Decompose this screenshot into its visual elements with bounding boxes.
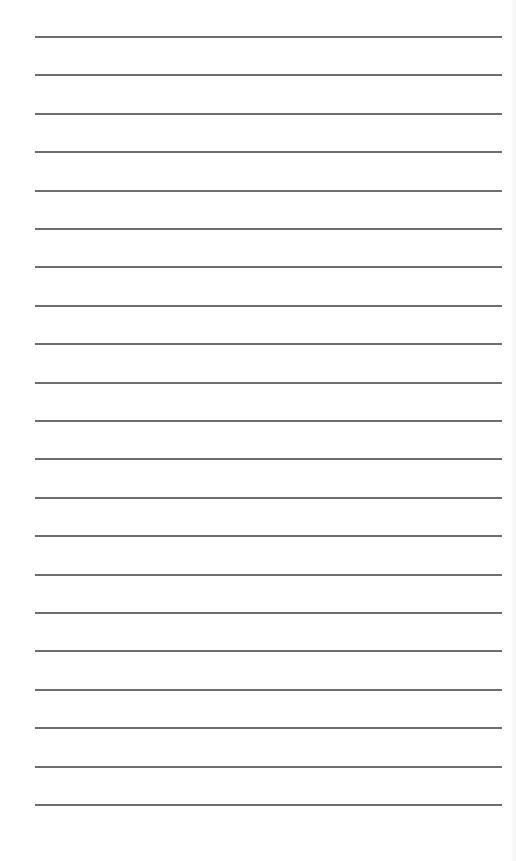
ruled-line <box>35 74 502 76</box>
ruled-line <box>35 343 502 345</box>
ruled-line <box>35 458 502 460</box>
ruled-line <box>35 420 502 422</box>
ruled-line <box>35 497 502 499</box>
ruled-line <box>35 727 502 729</box>
ruled-line <box>35 535 502 537</box>
page-edge-shadow <box>510 0 516 861</box>
ruled-line <box>35 266 502 268</box>
ruled-line <box>35 151 502 153</box>
ruled-line <box>35 190 502 192</box>
ruled-line <box>35 650 502 652</box>
ruled-line <box>35 612 502 614</box>
ruled-line <box>35 804 502 806</box>
ruled-line <box>35 36 502 38</box>
ruled-line <box>35 574 502 576</box>
ruled-line <box>35 689 502 691</box>
lined-paper-page <box>0 0 516 861</box>
ruled-line <box>35 228 502 230</box>
ruled-line <box>35 766 502 768</box>
ruled-line <box>35 382 502 384</box>
ruled-line <box>35 113 502 115</box>
ruled-line <box>35 305 502 307</box>
